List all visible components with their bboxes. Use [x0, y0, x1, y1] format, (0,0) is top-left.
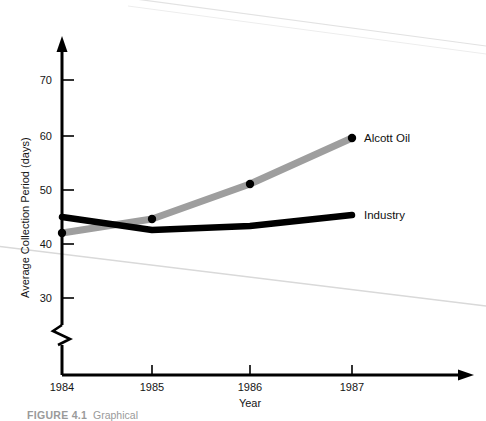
- x-axis-title: Year: [239, 397, 262, 409]
- figure-root: 70 60 50 40 30 Average Collection Period…: [0, 0, 486, 421]
- figure-caption-body: Graphical: [93, 409, 138, 421]
- x-tick-label-1984: 1984: [50, 381, 74, 393]
- scan-artifact-lines: [0, 0, 486, 306]
- y-tick-label-50: 50: [40, 184, 52, 196]
- data-point-alcott-1987: [348, 134, 356, 142]
- x-tick-label-1986: 1986: [238, 381, 262, 393]
- y-axis-title: Average Collection Period (days): [19, 137, 31, 298]
- figure-caption-number: FIGURE 4.1: [27, 409, 87, 421]
- x-tick-label-1985: 1985: [140, 381, 164, 393]
- y-tick-label-60: 60: [40, 130, 52, 142]
- y-tick-label-70: 70: [40, 74, 52, 86]
- data-point-alcott-1984: [58, 229, 66, 237]
- x-axis: [62, 370, 474, 381]
- series-label-industry: Industry: [364, 209, 405, 221]
- y-axis-break: [53, 325, 70, 345]
- y-tick-label-40: 40: [40, 238, 52, 250]
- x-tick-label-1987: 1987: [340, 381, 364, 393]
- y-axis: [53, 36, 70, 375]
- data-point-alcott-1986: [246, 180, 254, 188]
- series-label-alcott-oil: Alcott Oil: [364, 132, 410, 144]
- figure-caption: FIGURE 4.1 Graphical: [27, 409, 138, 421]
- data-point-alcott-1985: [148, 215, 156, 223]
- y-axis-ticks: [62, 80, 74, 298]
- line-chart: 70 60 50 40 30 Average Collection Period…: [0, 0, 486, 421]
- y-tick-label-30: 30: [40, 292, 52, 304]
